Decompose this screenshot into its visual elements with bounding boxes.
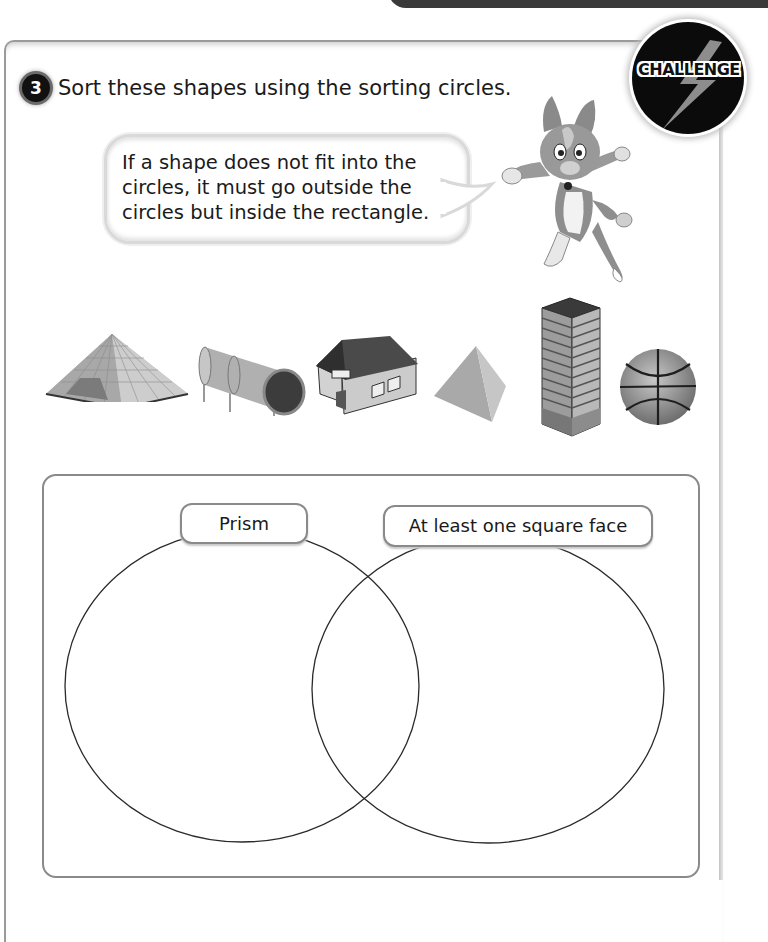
label-prism: Prism xyxy=(180,503,308,544)
sorting-circle-prism[interactable] xyxy=(65,530,419,842)
sorting-circle-square-face[interactable] xyxy=(312,535,664,843)
label-square-face: At least one square face xyxy=(383,505,653,547)
